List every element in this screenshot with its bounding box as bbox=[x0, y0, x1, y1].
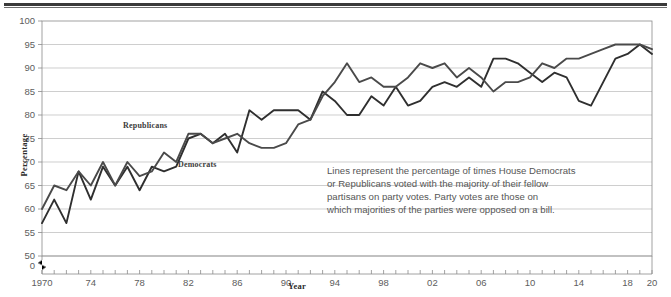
x-tick-label: 74 bbox=[86, 277, 97, 288]
top-rule-thick bbox=[4, 3, 667, 6]
x-axis-title: Year bbox=[288, 281, 306, 291]
x-tick-label: 14 bbox=[574, 277, 585, 288]
x-tick-label: 20 bbox=[647, 277, 658, 288]
x-tick-label: 94 bbox=[330, 277, 341, 288]
chart-figure: Percentage Year 505560657075808590951000… bbox=[0, 0, 671, 297]
top-rule-thin bbox=[4, 7, 667, 8]
x-tick-label: 1970 bbox=[31, 277, 52, 288]
y-tick-label: 85 bbox=[24, 86, 35, 97]
gridlines-group bbox=[42, 45, 652, 257]
x-tick-label: 98 bbox=[378, 277, 389, 288]
x-tick-label: 10 bbox=[525, 277, 536, 288]
series-label-republicans: Republicans bbox=[123, 121, 167, 130]
y-axis-title: Percentage bbox=[19, 110, 29, 200]
x-tick-label: 06 bbox=[476, 277, 487, 288]
note-line-1: Lines represent the percentage of times … bbox=[327, 165, 576, 176]
note-line-4: which majorities of the parties were opp… bbox=[326, 204, 555, 215]
x-tick-label: 18 bbox=[622, 277, 633, 288]
x-tick-label: 78 bbox=[134, 277, 145, 288]
series-label-democrats: Democrats bbox=[178, 160, 217, 169]
y-axis-break-symbol bbox=[38, 256, 46, 274]
y-tick-label: 95 bbox=[24, 39, 35, 50]
y-tick-label-zero: 0 bbox=[30, 260, 35, 271]
x-tick-label: 82 bbox=[183, 277, 194, 288]
y-tick-label: 55 bbox=[24, 227, 35, 238]
note-line-2: or Republicans voted with the majority o… bbox=[327, 178, 548, 189]
y-tick-label: 90 bbox=[24, 62, 35, 73]
x-tick-label: 86 bbox=[232, 277, 243, 288]
line-chart-plot: 505560657075808590951000 197074788286909… bbox=[0, 0, 671, 297]
y-tick-label: 60 bbox=[24, 203, 35, 214]
note-line-3: partisans on party votes. Party votes ar… bbox=[327, 191, 538, 202]
annotation-note: Lines represent the percentage of times … bbox=[326, 165, 576, 215]
x-tick-label: 02 bbox=[427, 277, 438, 288]
y-tick-label: 100 bbox=[19, 15, 35, 26]
x-axis-ticks: 197074788286909498020610141820 bbox=[31, 256, 657, 288]
